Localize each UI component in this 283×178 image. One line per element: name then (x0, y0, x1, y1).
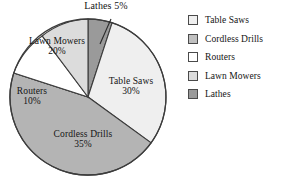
legend-item-lathes[interactable]: Lathes (188, 86, 283, 103)
slice-label-lawn-mowers: Lawn Mowers 20% (26, 36, 88, 57)
legend-label-table-saws: Table Saws (205, 15, 249, 25)
slice-label-cordless-drills: Cordless Drills 35% (34, 129, 132, 150)
slice-label-lathes: Lathes 5% (60, 1, 152, 12)
legend-swatch-lawn-mowers (188, 71, 198, 81)
pie-chart-figure: Lathes 5% Lawn Mowers 20% Routers 10% Ta… (0, 0, 283, 178)
legend-swatch-lathes (188, 89, 198, 99)
slice-label-lawn-mowers-pct: 20% (26, 46, 88, 56)
slice-label-routers-name: Routers (1, 86, 63, 96)
legend-label-cordless-drills: Cordless Drills (205, 34, 263, 44)
chart-legend: Table Saws Cordless Drills Routers Lawn … (188, 12, 283, 105)
legend-label-routers: Routers (205, 52, 235, 62)
slice-label-routers: Routers 10% (1, 86, 63, 107)
legend-label-lawn-mowers: Lawn Mowers (205, 71, 261, 81)
pie-chart-plot-area: Lathes 5% Lawn Mowers 20% Routers 10% Ta… (0, 0, 186, 178)
legend-swatch-routers (188, 52, 198, 62)
legend-swatch-cordless-drills (188, 34, 198, 44)
slice-label-cordless-drills-pct: 35% (34, 139, 132, 149)
slice-label-cordless-drills-name: Cordless Drills (34, 129, 132, 139)
slice-label-lathes-pct: 5% (114, 0, 128, 11)
slice-label-table-saws-pct: 30% (98, 86, 164, 96)
legend-swatch-table-saws (188, 15, 198, 25)
slice-label-lathes-name: Lathes (84, 0, 111, 11)
slice-label-table-saws-name: Table Saws (98, 76, 164, 86)
legend-item-table-saws[interactable]: Table Saws (188, 12, 283, 29)
slice-label-table-saws: Table Saws 30% (98, 76, 164, 97)
legend-item-routers[interactable]: Routers (188, 49, 283, 66)
slice-label-routers-pct: 10% (1, 96, 63, 106)
slice-label-lawn-mowers-name: Lawn Mowers (26, 36, 88, 46)
legend-label-lathes: Lathes (205, 89, 231, 99)
legend-item-lawn-mowers[interactable]: Lawn Mowers (188, 68, 283, 85)
legend-item-cordless-drills[interactable]: Cordless Drills (188, 31, 283, 48)
